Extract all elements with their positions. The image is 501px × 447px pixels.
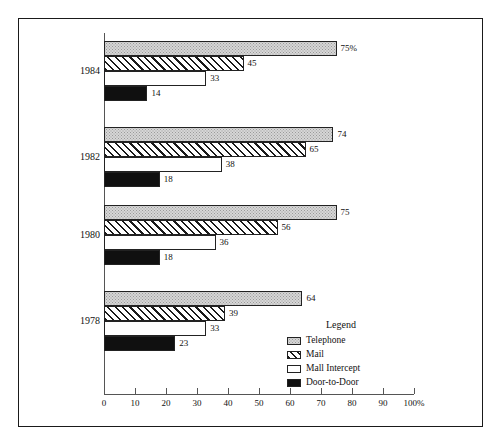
bar-value-label: 18 [160,173,173,186]
bar-value-label: 75 [337,206,350,219]
x-axis-line [104,394,414,395]
legend-label: Mail [306,349,324,360]
bar-value-label: 36 [216,236,229,249]
bar-value-label: 18 [160,251,173,264]
bar-value-label: 56 [278,221,291,234]
x-axis-tick [228,388,229,394]
bar-mail-1984[interactable] [104,56,244,71]
x-axis-tick-label: 10 [118,398,152,408]
bar-row: 36 [104,235,434,250]
chart-frame: 0102030405060708090100% 198475%453314198… [18,18,483,427]
bar-value-label: 65 [306,143,319,156]
bar-value-label: 33 [206,322,219,335]
bar-value-label: 33 [206,72,219,85]
x-axis-tick-label: 60 [273,398,307,408]
legend-swatch-mall-intercept-icon [287,365,301,373]
bar-mail-1982[interactable] [104,142,306,157]
legend-item-mall-intercept[interactable]: Mall Intercept [287,362,417,375]
category-label-1980: 1980 [80,229,100,240]
legend-label: Mall Intercept [306,363,360,374]
x-axis-tick [166,388,167,394]
x-axis-tick-label: 20 [149,398,183,408]
bar-telephone-1978[interactable] [104,291,302,306]
x-axis-tick-label: 80 [335,398,369,408]
legend-item-telephone[interactable]: Telephone [287,334,417,347]
bar-row: 65 [104,142,434,157]
x-axis-tick-label: 100% [397,398,431,408]
bar-row: 45 [104,56,434,71]
legend-swatch-door-to-door-icon [287,379,301,387]
legend-items: TelephoneMailMall InterceptDoor-to-Door [287,334,417,389]
bar-row: 38 [104,157,434,172]
x-axis-tick [259,388,260,394]
bar-mall-intercept-1984[interactable] [104,71,206,86]
bar-row: 14 [104,86,434,101]
category-label-1978: 1978 [80,315,100,326]
category-label-1984: 1984 [80,65,100,76]
bar-row: 33 [104,71,434,86]
bar-group-1982: 198274653818 [104,127,434,187]
bar-value-label: 64 [302,292,315,305]
bar-value-label: 38 [222,158,235,171]
legend-swatch-mail-icon [287,351,301,359]
bar-row: 18 [104,172,434,187]
bar-mail-1978[interactable] [104,306,225,321]
bar-value-label: 23 [175,337,188,350]
bar-row: 75% [104,41,434,56]
bar-telephone-1980[interactable] [104,205,337,220]
x-axis-tick [197,388,198,394]
bar-value-label: 45 [244,57,257,70]
legend-label: Telephone [306,335,345,346]
bar-telephone-1982[interactable] [104,127,333,142]
category-label-1982: 1982 [80,151,100,162]
legend-label: Door-to-Door [306,377,359,388]
bar-door-to-door-1982[interactable] [104,172,160,187]
bar-door-to-door-1980[interactable] [104,250,160,265]
bar-telephone-1984[interactable] [104,41,337,56]
bar-mall-intercept-1982[interactable] [104,157,222,172]
x-axis-tick-label: 90 [366,398,400,408]
legend-item-door-to-door[interactable]: Door-to-Door [287,376,417,389]
legend-swatch-telephone-icon [287,337,301,345]
bar-chart-plot: 0102030405060708090100% 198475%453314198… [19,19,484,428]
x-axis-tick-label: 0 [87,398,121,408]
legend-title: Legend [287,319,417,331]
bar-row: 56 [104,220,434,235]
bar-group-1980: 198075563618 [104,205,434,265]
x-axis-tick-label: 70 [304,398,338,408]
bar-door-to-door-1984[interactable] [104,86,147,101]
bar-value-label: 39 [225,307,238,320]
bar-row: 75 [104,205,434,220]
x-axis-tick-label: 30 [180,398,214,408]
bar-door-to-door-1978[interactable] [104,336,175,351]
legend: Legend TelephoneMailMall InterceptDoor-t… [287,319,417,390]
bar-value-label: 75% [337,42,358,55]
bar-mail-1980[interactable] [104,220,278,235]
x-axis-tick [104,388,105,394]
bar-group-1984: 198475%453314 [104,41,434,101]
bar-value-label: 14 [147,87,160,100]
bar-row: 74 [104,127,434,142]
x-axis-tick-label: 40 [211,398,245,408]
x-axis-tick-label: 50 [242,398,276,408]
bar-row: 18 [104,250,434,265]
bar-row: 64 [104,291,434,306]
bar-mall-intercept-1978[interactable] [104,321,206,336]
legend-item-mail[interactable]: Mail [287,348,417,361]
bar-mall-intercept-1980[interactable] [104,235,216,250]
x-axis-tick [135,388,136,394]
bar-value-label: 74 [333,128,346,141]
